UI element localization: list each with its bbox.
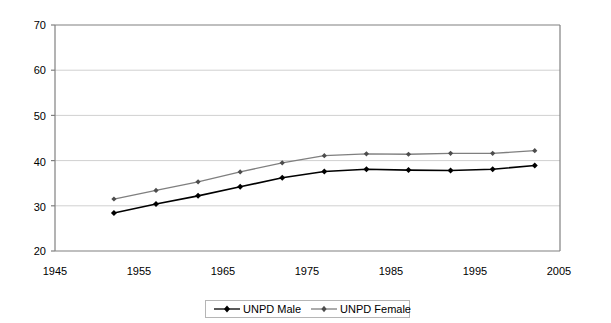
- legend-entry-male: UNPD Male: [214, 303, 301, 315]
- series-male: [111, 163, 538, 216]
- line-chart: 70 60 50 40 30 20 1945 1955 1965 1975 19…: [0, 0, 611, 323]
- legend-label-male: UNPD Male: [243, 303, 301, 315]
- gridlines: [55, 70, 560, 206]
- axis-frame: [51, 25, 560, 251]
- legend-swatch-female: [311, 304, 337, 314]
- series-female: [111, 148, 537, 202]
- plot-area: [0, 0, 611, 323]
- legend-entry-female: UNPD Female: [311, 303, 411, 315]
- legend-label-female: UNPD Female: [340, 303, 411, 315]
- legend-swatch-male: [214, 304, 240, 314]
- legend: UNPD Male UNPD Female: [205, 300, 410, 318]
